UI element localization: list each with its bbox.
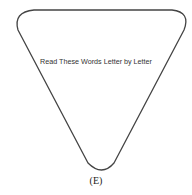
figure-caption: (E) (0, 175, 192, 186)
rounded-inverted-triangle (0, 0, 192, 195)
triangle-text: Read These Words Letter by Letter (0, 57, 192, 66)
